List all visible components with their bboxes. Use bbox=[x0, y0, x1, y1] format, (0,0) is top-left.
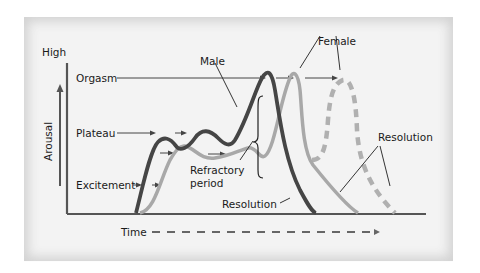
sexual-response-cycle-diagram: High Arousal Orgasm Plateau Excitement M… bbox=[0, 0, 480, 273]
male-pointer bbox=[215, 63, 237, 107]
phase-label-orgasm: Orgasm bbox=[76, 72, 117, 84]
resolution-male-pointer bbox=[280, 198, 290, 203]
curve-label-refractory-1: Refractory bbox=[190, 164, 245, 176]
curve-label-refractory-2: period bbox=[190, 177, 223, 189]
y-axis-label: Arousal bbox=[42, 122, 54, 161]
arrow-right-icon bbox=[181, 131, 187, 136]
curve-label-resolution-female: Resolution bbox=[378, 131, 433, 143]
phase-label-plateau: Plateau bbox=[76, 127, 115, 139]
curve-label-male: Male bbox=[200, 55, 225, 67]
curve-label-resolution-male: Resolution bbox=[222, 198, 277, 210]
y-axis-top-label: High bbox=[42, 46, 66, 58]
x-axis-label: Time bbox=[120, 226, 147, 238]
curve-label-female: Female bbox=[318, 35, 356, 47]
phase-label-excitement: Excitement bbox=[76, 179, 135, 191]
arrow-right-icon bbox=[150, 131, 156, 136]
arrow-right-icon bbox=[332, 76, 338, 81]
female-curve-multiple-orgasm bbox=[312, 80, 395, 213]
refractory-brace bbox=[253, 96, 263, 178]
male-curve bbox=[136, 73, 316, 213]
arrow-right-icon bbox=[374, 229, 380, 235]
resolution-female-pointer-2 bbox=[380, 146, 390, 186]
female-pointer-1 bbox=[300, 36, 320, 68]
arrow-up-icon bbox=[57, 84, 64, 92]
